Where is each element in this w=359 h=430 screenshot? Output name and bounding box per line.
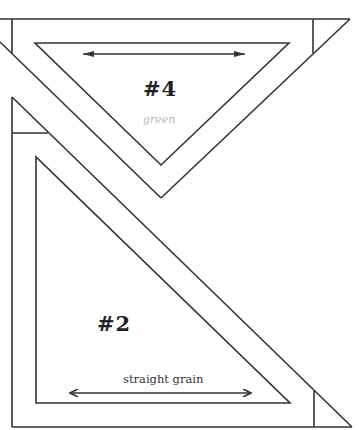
piece-4-outer-right-diagonal <box>161 19 350 198</box>
piece-4-label: #4 <box>143 76 177 101</box>
piece-4-template: #4 green <box>0 19 350 198</box>
quilt-pattern-diagram: #4 green straight grain #2 <box>0 0 359 430</box>
piece-2-label: #2 <box>97 311 131 336</box>
piece-2-template: straight grain #2 <box>12 97 352 427</box>
piece-2-inner-triangle <box>36 157 290 403</box>
piece-4-outer-left-diagonal <box>0 42 161 198</box>
piece-4-inner-triangle <box>35 43 289 165</box>
piece-4-color-note: green <box>143 113 175 126</box>
piece-2-grain-label: straight grain <box>123 372 204 386</box>
